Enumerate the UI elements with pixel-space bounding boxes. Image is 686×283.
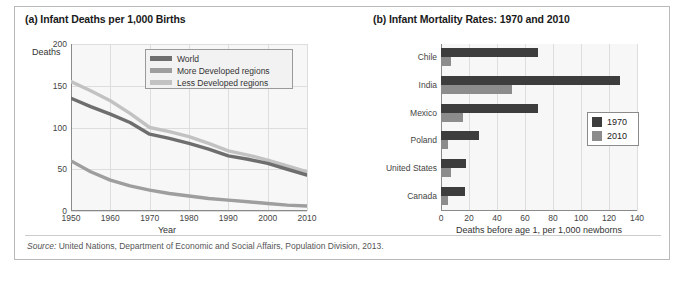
panel-b-bar: [441, 140, 448, 149]
panel-b-x-tick: 0: [439, 213, 444, 223]
figure-container: (a) Infant Deaths per 1,000 Births Death…: [14, 6, 670, 260]
source-divider: [25, 235, 661, 236]
panel-b-category-label: Chile: [418, 52, 437, 62]
source-note: Source: United Nations, Department of Ec…: [27, 241, 384, 251]
panel-b-x-tick: 140: [630, 213, 644, 223]
panel-b-bar: [441, 76, 620, 85]
panel-a-line-chart: (a) Infant Deaths per 1,000 Births Death…: [15, 7, 357, 231]
panel-a-gridline-v: [307, 44, 308, 211]
panel-a-legend-item: Less Developed regions: [150, 77, 288, 88]
panel-b-legend-item: 1970: [592, 116, 634, 128]
panel-b-bar: [441, 85, 512, 94]
panel-a-legend-item: World: [150, 53, 288, 64]
source-text: United Nations, Department of Economic a…: [56, 241, 383, 251]
panel-a-x-tick: 1980: [180, 213, 199, 223]
panel-b-bar: [441, 48, 538, 57]
panel-b-bar: [441, 104, 538, 113]
legend-swatch-icon: [592, 131, 602, 141]
panel-b-legend-label: 1970: [607, 117, 627, 127]
panel-a-legend-label: World: [177, 54, 199, 64]
panel-a-line-less-developed-regions: [71, 82, 307, 172]
panel-b-bar: [441, 168, 451, 177]
panel-b-bar-chart: (b) Infant Mortality Rates: 1970 and 201…: [357, 7, 670, 231]
panel-a-x-tick: 2000: [258, 213, 277, 223]
panel-a-x-tick-labels: 1950196019701980199020002010: [71, 213, 307, 227]
panel-b-bar: [441, 113, 463, 122]
panel-b-legend: 19702010: [587, 112, 639, 146]
panel-a-legend-label: More Developed regions: [177, 66, 270, 76]
legend-swatch-icon: [150, 68, 172, 73]
panel-a-y-tick-labels: 050100150200: [37, 44, 67, 211]
panel-a-x-tick: 2010: [298, 213, 317, 223]
panel-b-legend-label: 2010: [607, 131, 627, 141]
panel-b-x-axis-label: Deaths before age 1, per 1,000 newborns: [456, 225, 622, 235]
panel-a-x-tick: 1990: [219, 213, 238, 223]
panel-a-legend-item: More Developed regions: [150, 65, 288, 76]
legend-swatch-icon: [150, 80, 172, 85]
panel-a-legend: WorldMore Developed regionsLess Develope…: [145, 49, 293, 89]
panel-a-gridline-h: [71, 211, 307, 212]
panel-b-category-labels: ChileIndiaMexicoPolandUnited StatesCanad…: [357, 44, 437, 211]
panel-b-x-tick: 100: [574, 213, 588, 223]
panel-b-y-axis: [441, 44, 442, 211]
panel-b-gridline-v: [525, 44, 526, 211]
panel-b-x-axis: [441, 210, 637, 211]
panel-a-y-tick: 100: [53, 123, 67, 133]
panel-b-category-label: Mexico: [410, 108, 437, 118]
panel-b-bar: [441, 196, 448, 205]
panel-b-bar: [441, 187, 465, 196]
panel-a-y-tick: 200: [53, 39, 67, 49]
panel-a-x-tick: 1970: [140, 213, 159, 223]
panel-b-x-tick: 40: [492, 213, 501, 223]
panel-b-bar: [441, 57, 451, 66]
panel-a-x-axis-label: Year: [158, 225, 176, 235]
panel-b-bar: [441, 159, 466, 168]
panel-a-x-tick: 1950: [62, 213, 81, 223]
panel-a-y-tick: 150: [53, 81, 67, 91]
panel-a-line-more-developed-regions: [71, 161, 307, 206]
legend-swatch-icon: [592, 117, 602, 127]
panel-b-legend-item: 2010: [592, 130, 634, 142]
panel-b-bar: [441, 131, 479, 140]
panel-b-x-tick: 80: [548, 213, 557, 223]
source-label: Source:: [27, 241, 56, 251]
panel-b-category-label: Poland: [411, 135, 437, 145]
panel-a-x-tick: 1960: [101, 213, 120, 223]
panel-a-title: (a) Infant Deaths per 1,000 Births: [25, 13, 186, 25]
panel-b-x-tick: 20: [464, 213, 473, 223]
panel-b-gridline-v: [553, 44, 554, 211]
panel-b-title: (b) Infant Mortality Rates: 1970 and 201…: [373, 13, 570, 25]
panel-a-y-tick: 50: [58, 164, 67, 174]
panel-b-gridline-v: [469, 44, 470, 211]
panel-b-category-label: India: [419, 80, 437, 90]
panel-b-gridline-v: [497, 44, 498, 211]
panel-a-legend-label: Less Developed regions: [177, 78, 268, 88]
panel-b-category-label: United States: [386, 163, 437, 173]
legend-swatch-icon: [150, 56, 172, 61]
panel-b-x-tick: 120: [602, 213, 616, 223]
panel-b-category-label: Canada: [407, 191, 437, 201]
panel-b-x-tick: 60: [520, 213, 529, 223]
panel-b-gridline-v: [581, 44, 582, 211]
